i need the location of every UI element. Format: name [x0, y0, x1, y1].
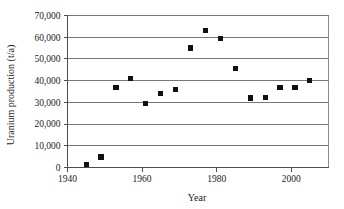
uranium-production-scatter-chart: 010,00020,00030,00040,00050,00060,00070,… [0, 0, 344, 209]
x-axis-title: Year [188, 192, 207, 203]
y-tick-label-10000: 10,000 [34, 141, 60, 151]
data-point-1965 [158, 91, 163, 96]
data-point-1997 [277, 85, 282, 90]
y-axis-title: Uranium production (t/a) [5, 45, 17, 146]
y-tick-label-70000: 70,000 [34, 11, 60, 21]
data-point-1981 [218, 36, 223, 41]
y-tick-label-0: 0 [56, 163, 61, 173]
data-point-1973 [188, 45, 193, 50]
x-tick-label-2000: 2000 [282, 174, 301, 184]
y-tick-label-40000: 40,000 [34, 76, 60, 86]
x-tick-label-1940: 1940 [58, 174, 77, 184]
x-tick-label-1980: 1980 [207, 174, 226, 184]
chart-figure: 010,00020,00030,00040,00050,00060,00070,… [0, 0, 344, 209]
data-point-1969 [173, 87, 178, 92]
data-point-1989 [248, 95, 253, 100]
data-point-2001 [292, 85, 297, 90]
y-tick-label-60000: 60,000 [34, 33, 60, 43]
y-tick-label-50000: 50,000 [34, 54, 60, 64]
data-point-1945 [84, 162, 89, 167]
data-point-1957 [128, 76, 133, 81]
data-point-1993 [263, 95, 268, 100]
y-tick-label-30000: 30,000 [34, 98, 60, 108]
data-point-1949 [98, 154, 103, 159]
data-point-1953 [113, 85, 118, 90]
data-point-1985 [233, 66, 238, 71]
data-point-2005 [307, 78, 312, 83]
data-point-1961 [143, 101, 148, 106]
y-tick-label-20000: 20,000 [34, 119, 60, 129]
data-point-1977 [203, 28, 208, 33]
x-tick-label-1960: 1960 [133, 174, 152, 184]
